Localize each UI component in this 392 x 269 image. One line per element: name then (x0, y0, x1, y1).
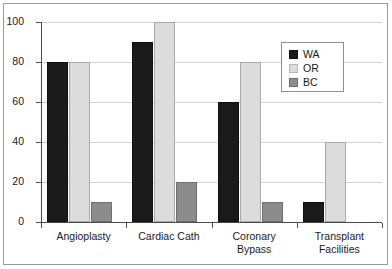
y-axis-tick-label: 60 (12, 96, 24, 106)
x-axis-tick (41, 223, 42, 228)
bar-or-0 (69, 62, 90, 222)
y-axis-tick-label: 40 (12, 136, 24, 146)
chart-frame: 020406080100 AngioplastyCardiac CathCoro… (3, 3, 388, 265)
bar-wa-1 (132, 42, 153, 222)
y-axis-line (41, 22, 42, 223)
x-axis-tick (212, 223, 213, 228)
bar-wa-3 (303, 202, 324, 222)
legend-swatch-wa (289, 50, 298, 59)
legend-label: WA (303, 49, 320, 60)
y-axis-tick (36, 22, 41, 23)
y-axis-tick-label: 100 (6, 16, 24, 26)
x-axis-tick (297, 223, 298, 228)
y-axis-tick-label: 0 (18, 216, 24, 226)
bar-or-1 (154, 22, 175, 222)
y-axis-tick (36, 142, 41, 143)
bar-wa-0 (47, 62, 68, 222)
bar-bc-2 (262, 202, 283, 222)
legend-label: BC (303, 77, 318, 88)
x-axis-category-label: Angioplasty (41, 230, 126, 243)
x-axis-category-label: Transplant Facilities (297, 230, 382, 255)
legend-swatch-or (289, 64, 298, 73)
legend-item-wa: WA (289, 48, 343, 61)
bar-bc-0 (91, 202, 112, 222)
gridline (41, 102, 382, 103)
y-axis-tick (36, 62, 41, 63)
y-axis-tick (36, 182, 41, 183)
gridline (41, 22, 382, 23)
bar-or-2 (240, 62, 261, 222)
bar-or-3 (325, 142, 346, 222)
legend-swatch-bc (289, 78, 298, 87)
x-axis-category-label: Coronary Bypass (212, 230, 297, 255)
x-axis-tick (382, 223, 383, 228)
bar-wa-2 (218, 102, 239, 222)
legend-label: OR (303, 63, 319, 74)
legend-item-or: OR (289, 62, 343, 75)
bar-bc-1 (176, 182, 197, 222)
chart-legend: WAORBC (281, 42, 344, 92)
y-axis-tick-label: 20 (12, 176, 24, 186)
x-axis-category-label: Cardiac Cath (126, 230, 211, 243)
x-axis-tick (126, 223, 127, 228)
y-axis-tick-label: 80 (12, 56, 24, 66)
legend-item-bc: BC (289, 76, 343, 89)
y-axis-tick (36, 102, 41, 103)
